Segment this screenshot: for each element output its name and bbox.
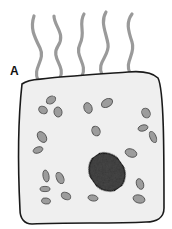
flagellum-3 [78,14,84,76]
figure-label: A [10,64,19,78]
flagellum-5 [128,14,133,73]
flagellum-1 [32,16,41,80]
flagella [32,12,132,80]
flagellum-4 [100,12,108,75]
cell-diagram: A [0,0,172,229]
cell-illustration [0,0,172,229]
flagellum-2 [54,16,61,78]
